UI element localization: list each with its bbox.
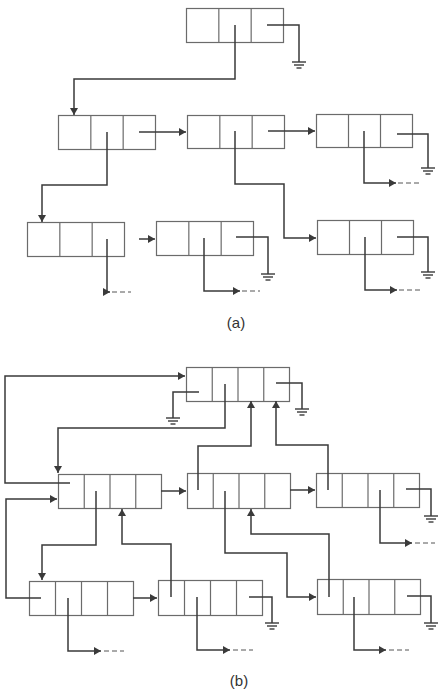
node-b-r3-3 [318,580,421,615]
diagram-svg [0,0,445,697]
node-a-r3-2 [157,222,254,256]
arrowhead-icon [390,286,397,294]
arrowhead-icon [70,108,78,115]
figure-b [5,368,438,656]
caption-b: (b) [230,672,248,689]
arrowhead-icon [389,179,396,187]
ground-icon [166,418,180,424]
arrowhead-icon [308,127,315,135]
node-b-root [187,368,290,402]
arrowhead-icon [223,646,230,654]
ground-icon [424,516,438,522]
pointer-arrow [161,487,186,495]
arrowhead-icon [38,215,46,222]
arrowhead-icon [405,539,412,547]
ground-icon [424,623,438,629]
node-a-r3-1 [28,223,125,257]
node-b-r3-2 [159,581,263,616]
pointer-arrow [290,486,315,494]
arrowhead-icon [94,647,101,655]
arrowhead-icon [50,495,57,503]
ground-icon [421,272,435,278]
arrowhead-icon [148,235,155,243]
ground-icon [421,168,435,174]
ground-icon [265,623,279,629]
linked-structure-diagram: (a) (b) [0,0,445,697]
node-b-r2-3 [317,474,420,508]
node-b-r2-1 [59,475,162,509]
arrowhead-icon [308,486,315,494]
arrowhead-icon [150,594,157,602]
pointer-arrow [139,235,155,243]
arrowhead-icon [118,509,126,516]
arrowhead-icon [233,287,240,295]
figure-a [28,9,436,297]
arrowhead-icon [38,573,46,580]
arrowhead-icon [247,509,255,516]
arrowhead-icon [179,128,186,136]
arrowhead-icon [309,593,316,601]
arrowhead-icon [178,372,185,380]
node-b-r3-1 [30,582,134,616]
node-a-r2-2 [188,116,285,149]
arrowhead-icon [179,487,186,495]
ground-icon [261,274,275,280]
arrowhead-icon [379,646,386,654]
node-b-r2-2 [188,474,291,509]
arrowhead-icon [309,234,316,242]
arrowhead-icon [54,466,62,473]
ground-icon [292,62,306,68]
caption-a: (a) [227,314,245,331]
ground-icon [295,409,309,415]
pointer-arrow [133,594,157,602]
